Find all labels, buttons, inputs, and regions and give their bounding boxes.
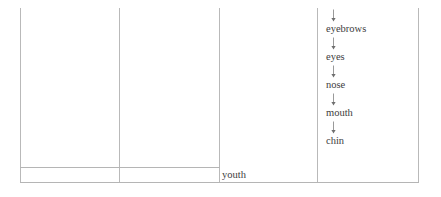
table-row-divider bbox=[20, 167, 220, 168]
down-arrow-icon bbox=[328, 9, 339, 22]
down-arrow-icon bbox=[328, 65, 339, 78]
table-column-divider-2 bbox=[219, 8, 220, 182]
down-arrow-icon bbox=[328, 37, 339, 50]
down-arrow-icon bbox=[328, 121, 339, 134]
chain-label-eyes: eyes bbox=[326, 50, 345, 65]
table-fragment-page: youth eyebrows eyes nose bbox=[0, 0, 441, 197]
chain-label-mouth: mouth bbox=[326, 106, 353, 121]
table-cell-column-1 bbox=[24, 12, 116, 164]
down-arrow-icon bbox=[328, 93, 339, 106]
table-cell-column-2 bbox=[123, 12, 216, 164]
table-border-bottom bbox=[20, 182, 419, 183]
table-border-left bbox=[20, 8, 21, 182]
feature-chain-list: eyebrows eyes nose mouth bbox=[326, 9, 414, 149]
chain-label-nose: nose bbox=[326, 78, 345, 93]
chain-label-eyebrows: eyebrows bbox=[326, 22, 366, 37]
table-cell-youth: youth bbox=[222, 168, 246, 181]
chain-label-chin: chin bbox=[326, 134, 344, 149]
table-border-right bbox=[418, 8, 419, 182]
table-column-divider-3 bbox=[317, 8, 318, 182]
table-column-divider-1 bbox=[119, 8, 120, 182]
